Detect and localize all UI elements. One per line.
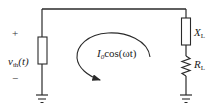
minus-label: − (12, 72, 18, 84)
plus-label: + (12, 27, 18, 39)
reactance-label: XL (193, 26, 205, 40)
source-branch (36, 9, 48, 103)
ground-icon (180, 95, 192, 103)
resistance-subscript: L (201, 64, 205, 72)
current-expression: cos(ωt) (104, 47, 137, 60)
voltage-arg: (t) (18, 55, 29, 68)
circuit-diagram: + vth(t) − XL RL I0cos(ωt) (0, 0, 214, 112)
ground-icon (36, 95, 48, 103)
reactance-box (182, 18, 191, 45)
source-voltage-label: vth(t) (8, 55, 29, 69)
resistor-icon (182, 56, 190, 76)
resistance-label: RL (193, 58, 205, 72)
loop-current-label: I0cos(ωt) (96, 47, 137, 61)
source-impedance-box (38, 37, 47, 64)
reactance-subscript: L (201, 32, 205, 40)
load-branch (180, 9, 192, 103)
